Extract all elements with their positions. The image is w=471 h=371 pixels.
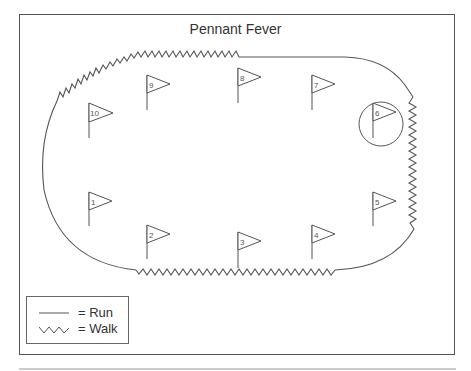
flag-number: 10 [90,109,99,118]
flag-number: 6 [375,109,380,118]
flag-number: 8 [240,74,245,83]
flag-9: 9 [147,75,170,110]
flag-2: 2 [147,225,170,259]
flag-number: 1 [91,198,96,207]
flag-4: 4 [312,225,335,259]
flag-number: 5 [375,198,380,207]
walk-zigzag-icon [39,321,71,337]
flag-5: 5 [373,192,396,226]
walk-segment-right [409,97,416,229]
legend-walk-row: = Walk [27,321,128,337]
legend: = Run = Walk [26,296,129,344]
run-line-icon [39,305,71,321]
flag-1: 1 [89,192,112,226]
legend-walk-label: = Walk [78,321,118,337]
flag-6: 6 [373,103,396,138]
flag-10: 10 [89,103,113,138]
legend-run-row: = Run [27,305,128,321]
flag-number: 2 [149,231,154,240]
flag-number: 3 [240,238,245,247]
walk-segment-bottom [136,269,335,275]
legend-run-label: = Run [78,305,113,321]
flag-8: 8 [238,68,261,103]
flag-number: 7 [314,81,319,90]
run-segment-top-right [239,57,413,97]
flag-number: 9 [149,81,154,90]
flag-number: 4 [314,231,319,240]
flag-3: 3 [238,232,261,268]
run-segment-bottom-right [335,229,414,270]
bottom-divider [19,368,456,370]
flag-7: 7 [312,75,335,110]
